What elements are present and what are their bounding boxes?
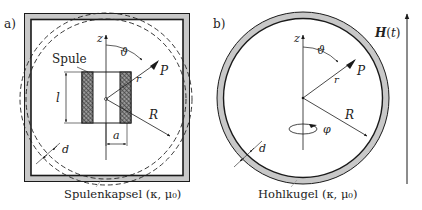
panel-b-tag: b) [213, 17, 225, 31]
diagram-canvas: a) z P r ϑ R [0, 0, 422, 210]
coil-radius-label: a [113, 129, 120, 142]
thickness-label-a: d [62, 143, 69, 156]
R-label-b: R [344, 108, 354, 122]
thickness-label-b: d [259, 142, 266, 155]
sphere-caption: Hohlkugel (κ, μ₀) [258, 187, 357, 201]
z-axis-label-b: z [293, 32, 300, 45]
coil-winding-left [82, 72, 93, 123]
theta-label: ϑ [120, 46, 128, 59]
point-p-label-b: P [356, 64, 366, 78]
panel-b: b) z P r ϑ R φ d Hohlkugel (κ, μ₀) [213, 12, 389, 201]
coil-length-label: l [56, 91, 60, 105]
coil-winding-right [120, 72, 131, 123]
point-p-label: P [159, 64, 169, 78]
azimuth-label: φ [323, 123, 331, 136]
capsule-caption: Spulenkapsel (κ, μ₀) [64, 187, 181, 201]
panel-a-tag: a) [4, 17, 16, 31]
panel-a: a) z P r ϑ R [4, 13, 192, 201]
coil-label: Spule [52, 52, 87, 66]
field-label: H(t) [374, 26, 401, 40]
z-axis-label: z [96, 32, 103, 45]
theta-label-b: ϑ [317, 44, 325, 57]
R-label: R [148, 108, 158, 122]
